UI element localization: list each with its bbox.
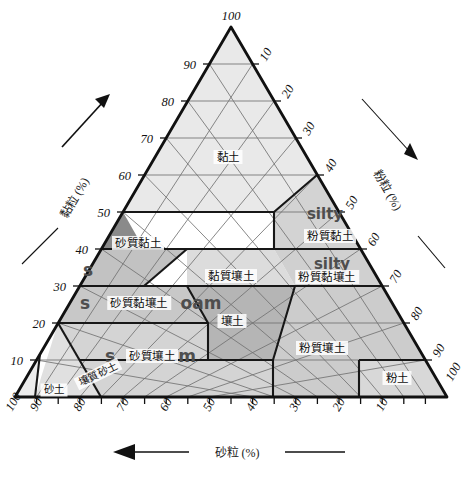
tick-silt-20: 20	[278, 82, 297, 100]
tick-clay-50: 50	[98, 206, 111, 220]
tick-clay-80: 80	[162, 95, 175, 109]
clay-guide-line	[22, 228, 58, 264]
tick-silt-70: 70	[386, 267, 405, 285]
class-label-silty-clay-loam: 粉質黏壤土	[295, 270, 359, 284]
tick-silt-60: 60	[364, 230, 383, 248]
tick-silt-10: 10	[256, 45, 275, 63]
sand-arrow-head	[113, 444, 135, 460]
tick-silt-100: 100	[442, 360, 464, 384]
tick-clay-90: 90	[184, 58, 197, 72]
clay-arrow-shaft	[62, 101, 104, 147]
class-label-silt: 粉土	[383, 371, 412, 385]
class-label-sandy-clay-loam: 砂質黏壤土	[107, 296, 171, 310]
tick-silt-50: 50	[342, 193, 361, 211]
soil-texture-triangle-figure: 100 90 80 70 60 50 40 30 20 10 10 20 30 …	[0, 0, 473, 477]
axis-title-silt: 粉粒 (%)	[370, 167, 405, 213]
class-label-silt-loam: 粉質壤土	[296, 341, 348, 355]
english-overlay-clay-loam-suffix: oam	[181, 293, 222, 313]
tick-silt-90: 90	[429, 341, 448, 359]
class-label-clay: 黏土	[214, 150, 243, 164]
tick-silt-40: 40	[321, 156, 340, 174]
axis-title-clay: 黏粒 (%)	[56, 175, 91, 221]
silt-guide-line	[418, 236, 445, 268]
tick-clay-40: 40	[76, 243, 89, 257]
tick-clay-30: 30	[53, 280, 67, 294]
english-overlay-sandy-clay-loam: s	[80, 293, 90, 313]
tick-silt-80: 80	[407, 304, 426, 322]
english-overlay-sandy-clay: s	[83, 260, 93, 280]
class-label-sandy-loam: 砂質壤土	[126, 349, 178, 363]
clay-arrow-head	[95, 94, 110, 108]
tick-clay-20: 20	[33, 317, 46, 331]
region-sandy-clay	[80, 249, 187, 286]
ternary-diagram-svg: 100 90 80 70 60 50 40 30 20 10 10 20 30 …	[0, 0, 473, 477]
silt-arrow-head	[404, 143, 418, 160]
english-overlay-sandy-loam-suffix: m	[178, 346, 196, 366]
class-label-sandy-clay: 砂質黏土	[112, 236, 164, 250]
tick-clay-10: 10	[11, 354, 24, 368]
axis-title-sand: 砂粒 (%)	[215, 445, 260, 460]
class-label-loam: 壤土	[218, 314, 247, 328]
tick-clay-70: 70	[141, 132, 154, 146]
class-label-clay-loam: 黏質壤土	[205, 269, 257, 283]
tick-silt-30: 30	[299, 119, 318, 138]
english-overlay-silty-clay: silty	[307, 205, 343, 223]
silt-arrow-shaft	[362, 99, 410, 152]
tick-apex: 100	[222, 9, 242, 23]
tick-clay-60: 60	[119, 169, 132, 183]
class-label-silty-clay: 粉質黏土	[304, 229, 356, 243]
class-label-sand: 砂土	[41, 383, 68, 396]
